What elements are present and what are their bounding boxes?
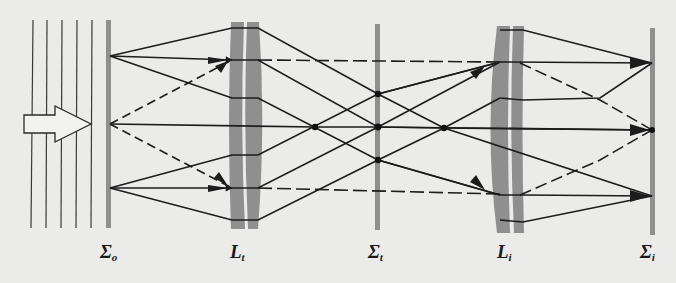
label-main: Σ [368, 241, 380, 262]
incident-light-arrow-icon [24, 106, 91, 142]
label-main: Σ [640, 241, 652, 262]
label-sub: i [652, 251, 655, 263]
label-sub: t [380, 251, 383, 263]
label-main: L [497, 241, 509, 262]
label-transform-plane: Σt [368, 242, 383, 263]
label-sub: t [242, 251, 245, 263]
label-object-plane: Σo [100, 242, 117, 263]
rays [110, 28, 652, 222]
label-image-plane: Σi [640, 242, 655, 263]
label-sub: o [112, 251, 118, 263]
label-main: L [230, 241, 242, 262]
label-sub: i [509, 251, 512, 263]
label-transform-lens: Lt [230, 242, 245, 263]
optical-diagram: Σo Lt Σt Li Σi [0, 0, 676, 283]
label-main: Σ [100, 241, 112, 262]
label-imaging-lens: Li [497, 242, 512, 263]
